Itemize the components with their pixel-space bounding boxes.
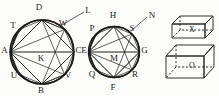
right-label-R: R (132, 69, 138, 79)
right-label-Q: Q (89, 69, 96, 79)
left-label-L: L (85, 5, 91, 15)
box-bottom-group: O (166, 45, 214, 78)
left-label-W: W (59, 18, 68, 28)
box-top-hidden-edges (180, 16, 213, 30)
box-bottom-top-face (166, 45, 214, 56)
right-label-G: G (141, 45, 148, 55)
right-label-F: F (110, 82, 115, 92)
right-label-E: E (81, 45, 87, 55)
box-top-right-face (205, 16, 213, 38)
right-circle-group: E G H F P S Q R M N (81, 10, 156, 92)
box-bottom-hidden-diagonal (166, 67, 176, 78)
right-label-H: H (110, 10, 117, 20)
left-label-B: B (38, 85, 44, 95)
right-label-S: S (129, 23, 134, 33)
right-label-P: P (89, 23, 94, 33)
left-circle-group: A C D B T W U V K L (1, 2, 91, 95)
left-label-K: K (38, 53, 45, 63)
figure-canvas: A C D B T W U V K L (0, 0, 219, 96)
left-label-D: D (36, 2, 43, 12)
left-label-A: A (1, 45, 8, 55)
box-top-top-face (172, 16, 213, 24)
left-label-V: V (65, 70, 72, 80)
geometry-figure: A C D B T W U V K L (0, 0, 219, 96)
box-top-label: X (189, 25, 195, 34)
right-label-N: N (149, 10, 156, 20)
left-label-U: U (11, 70, 18, 80)
box-top-hidden-diagonal (172, 30, 180, 38)
box-bottom-right-face (204, 45, 214, 78)
right-label-M: M (110, 53, 118, 63)
box-bottom-label: O (189, 61, 195, 70)
box-top-group: X (172, 16, 213, 38)
left-label-T: T (10, 20, 16, 30)
